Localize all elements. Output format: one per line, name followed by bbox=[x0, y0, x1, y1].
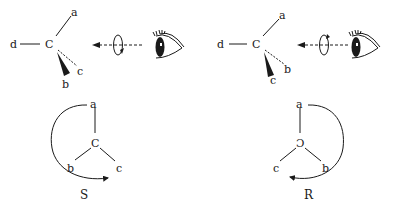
label-c: c bbox=[77, 65, 83, 78]
wedge-bond-b bbox=[57, 52, 70, 76]
arrow-head-icon bbox=[297, 42, 305, 48]
right-viewing-arrow bbox=[297, 34, 348, 55]
left-projection: a C b c S bbox=[51, 98, 122, 202]
label-center-c: C bbox=[91, 137, 99, 150]
label-d: d bbox=[217, 38, 224, 51]
label-b: b bbox=[284, 63, 291, 76]
bond-c-a bbox=[263, 19, 279, 36]
bond-c-a bbox=[56, 16, 71, 36]
left-eye-icon bbox=[153, 30, 184, 58]
counterclockwise-arrow-icon bbox=[51, 105, 108, 179]
rs-configuration-diagram: d C a b c a C b c S bbox=[0, 0, 393, 211]
left-viewing-arrow bbox=[92, 35, 142, 55]
label-center-c: C bbox=[252, 38, 260, 51]
label-a: a bbox=[90, 98, 97, 111]
right-eye-icon bbox=[349, 30, 380, 58]
label-a: a bbox=[279, 9, 286, 22]
label-a: a bbox=[71, 6, 78, 19]
rotation-arrow-icon bbox=[326, 34, 330, 39]
right-projection: a Ɔ c b R bbox=[273, 98, 343, 202]
bond-c-c bbox=[280, 148, 296, 161]
label-a: a bbox=[296, 98, 303, 111]
label-d: d bbox=[10, 38, 17, 51]
right-3d-structure: d C a b c bbox=[217, 9, 291, 87]
bond-c-c bbox=[100, 148, 115, 161]
arrow-head-icon bbox=[92, 42, 100, 48]
label-c: c bbox=[116, 162, 122, 175]
label-center-c-mirrored: Ɔ bbox=[296, 137, 304, 150]
label-c: c bbox=[273, 162, 279, 175]
label-center-c: C bbox=[45, 38, 53, 51]
configuration-label-s: S bbox=[80, 188, 88, 202]
left-3d-structure: d C a b c bbox=[10, 6, 83, 91]
label-c: c bbox=[270, 74, 276, 87]
label-b: b bbox=[62, 78, 69, 91]
bond-c-b bbox=[75, 148, 91, 160]
configuration-label-r: R bbox=[304, 188, 314, 202]
bond-c-b bbox=[305, 148, 321, 161]
